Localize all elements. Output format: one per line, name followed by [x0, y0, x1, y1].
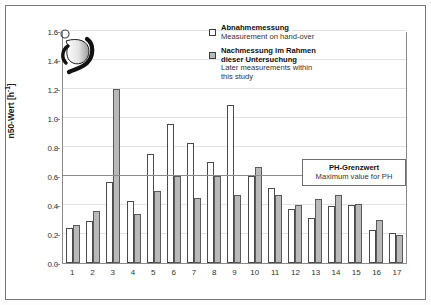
x-axis-tick-label: 1: [62, 265, 82, 283]
bar-handover-9[interactable]: [227, 105, 234, 263]
legend-item-handover: Abnahmemessung Measurement on hand-over: [209, 24, 361, 41]
bar-handover-16[interactable]: [369, 230, 376, 263]
chart-figure: 0.00.20.40.60.81.01.21.41.6 n50-Wert [h-…: [0, 0, 431, 305]
legend-item-later: Nachmessung im Rahmen dieser Untersuchun…: [209, 47, 361, 81]
bar-later-4[interactable]: [134, 214, 141, 263]
bar-later-10[interactable]: [255, 167, 262, 263]
bar-later-8[interactable]: [214, 176, 221, 263]
bar-handover-13[interactable]: [308, 218, 315, 263]
reference-line-callout: PH-Grenzwert Maximum value for PH: [302, 159, 406, 186]
x-axis-tick-label: 17: [387, 265, 407, 283]
legend-swatch-handover-icon: [209, 29, 216, 36]
bar-later-9[interactable]: [234, 195, 241, 263]
bar-handover-10[interactable]: [248, 176, 255, 263]
bar-group: [164, 32, 184, 263]
bar-handover-12[interactable]: [288, 209, 295, 263]
y-axis-label-base: n50-Wert [h: [6, 92, 16, 139]
bar-group: [386, 32, 406, 263]
y-axis-tick-label: 0.4: [0, 202, 58, 211]
y-axis-label-exponent: -1: [4, 86, 11, 92]
x-axis-tick-label: 13: [306, 265, 326, 283]
bar-group: [124, 32, 144, 263]
x-axis-tick-label: 8: [204, 265, 224, 283]
y-axis-tick-mark: [56, 235, 60, 236]
legend-handover-en: Measurement on hand-over: [221, 33, 314, 42]
bar-group: [103, 32, 123, 263]
y-axis-tick-mark: [56, 119, 60, 120]
bar-later-12[interactable]: [295, 205, 302, 263]
bar-handover-8[interactable]: [207, 162, 214, 264]
bar-group: [184, 32, 204, 263]
x-axis-tick-label: 14: [326, 265, 346, 283]
bar-later-1[interactable]: [73, 225, 80, 263]
x-axis-tick-label: 5: [143, 265, 163, 283]
x-axis-tick-label: 4: [123, 265, 143, 283]
bar-handover-14[interactable]: [328, 206, 335, 263]
bar-handover-15[interactable]: [348, 205, 355, 263]
bar-handover-6[interactable]: [167, 124, 174, 263]
bar-handover-2[interactable]: [86, 221, 93, 263]
x-axis-tick-label: 7: [184, 265, 204, 283]
bar-group: [366, 32, 386, 263]
y-axis-tick-mark: [56, 90, 60, 91]
bar-group: [144, 32, 164, 263]
bar-later-14[interactable]: [335, 195, 342, 263]
x-axis-tick-label: 9: [224, 265, 244, 283]
x-axis-tick-label: 16: [366, 265, 386, 283]
y-axis-tick-mark: [56, 264, 60, 265]
x-axis-tick-label: 11: [265, 265, 285, 283]
bar-later-13[interactable]: [315, 199, 322, 263]
bar-handover-17[interactable]: [389, 233, 396, 263]
x-axis-tick-label: 10: [245, 265, 265, 283]
chart-legend: Abnahmemessung Measurement on hand-over …: [209, 24, 361, 87]
y-axis-tick-mark: [56, 206, 60, 207]
bar-later-2[interactable]: [93, 211, 100, 263]
y-axis-tick-mark: [56, 148, 60, 149]
x-axis: 1234567891011121314151617: [62, 265, 407, 283]
bar-later-3[interactable]: [113, 89, 120, 263]
bar-later-6[interactable]: [174, 176, 181, 263]
bar-later-17[interactable]: [396, 235, 403, 263]
y-axis-label-tail: ]: [6, 83, 16, 86]
bar-handover-3[interactable]: [106, 182, 113, 263]
bar-later-16[interactable]: [376, 220, 383, 264]
x-axis-tick-label: 15: [346, 265, 366, 283]
y-axis-label: n50-Wert [h-1]: [4, 31, 16, 191]
y-axis-tick-label: 0.2: [0, 231, 58, 240]
x-axis-tick-label: 12: [285, 265, 305, 283]
rho-logo-icon: [56, 28, 102, 76]
bar-handover-7[interactable]: [187, 143, 194, 263]
bar-handover-5[interactable]: [147, 154, 154, 263]
y-axis-tick-mark: [56, 177, 60, 178]
bar-handover-1[interactable]: [66, 228, 73, 263]
bar-handover-11[interactable]: [268, 188, 275, 263]
x-axis-tick-label: 6: [163, 265, 183, 283]
y-axis-tick-label: 0.0: [0, 260, 58, 269]
x-axis-tick-label: 2: [82, 265, 102, 283]
bar-later-7[interactable]: [194, 198, 201, 263]
reference-line-label-de: PH-Grenzwert: [305, 163, 403, 172]
reference-line-label-en: Maximum value for PH: [305, 172, 403, 181]
legend-later-en-line2: this study: [221, 73, 316, 82]
x-axis-tick-label: 3: [103, 265, 123, 283]
bar-later-11[interactable]: [275, 195, 282, 263]
bar-later-15[interactable]: [355, 204, 362, 263]
bar-later-5[interactable]: [154, 191, 161, 264]
legend-swatch-later-icon: [209, 52, 216, 59]
bar-handover-4[interactable]: [127, 201, 134, 263]
